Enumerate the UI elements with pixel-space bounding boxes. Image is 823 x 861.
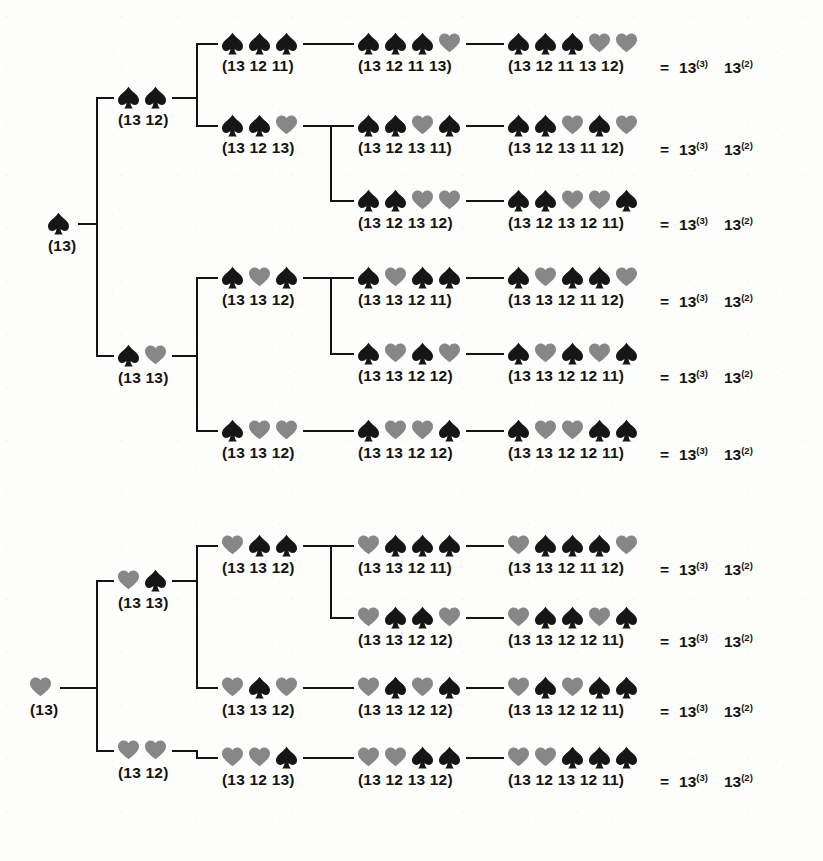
result-term-superscript: (3) [696, 702, 708, 713]
connector-horizontal [196, 757, 218, 759]
connector-horizontal [196, 43, 218, 45]
heart-icon [589, 33, 610, 53]
connector-horizontal [303, 43, 330, 45]
heart-icon [535, 747, 556, 767]
node-label: (13 13 12 12) [358, 444, 466, 461]
node-label: (13 12 13) [222, 139, 303, 156]
connector-vertical [196, 545, 198, 687]
connector-vertical [196, 750, 198, 757]
spade-icon [589, 746, 610, 770]
node-label: (13 13 12 12 11) [508, 444, 643, 461]
connector-vertical [330, 125, 332, 200]
suit-sequence [222, 262, 303, 290]
spade-icon [48, 212, 69, 236]
result-term-superscript: (3) [696, 560, 708, 571]
node-label: (13 12 13) [222, 771, 303, 788]
spade-icon [616, 606, 637, 630]
level4-node: (13 12 13 12) [358, 185, 466, 231]
suit-sequence [358, 110, 466, 138]
spade-icon [535, 32, 556, 56]
node-label: (13 12 11 13) [358, 57, 466, 74]
spade-icon [222, 114, 243, 138]
suit-sequence [222, 530, 303, 558]
result-term-falling-3: 13(3) [679, 633, 708, 650]
spade-icon [385, 676, 406, 700]
level3-node: (13 12 13) [222, 110, 303, 156]
equals-sign: = [660, 446, 669, 463]
spade-icon [276, 266, 297, 290]
level5-node: (13 13 12 12 11) [508, 602, 643, 648]
connector-vertical [330, 545, 332, 617]
equals-sign: = [660, 561, 669, 578]
level4-node: (13 12 13 12) [358, 742, 466, 788]
spade-icon [145, 86, 166, 110]
spade-icon [562, 534, 583, 558]
level5-node: (13 13 12 12 11) [508, 415, 643, 461]
connector-horizontal [330, 200, 354, 202]
result-expression: =13(3)13(2) [660, 772, 769, 791]
result-term-superscript: (2) [741, 58, 753, 69]
result-term-falling-2: 13(2) [724, 561, 753, 578]
level3-node: (13 13 12) [222, 672, 303, 718]
heart-icon [412, 115, 433, 135]
suit-sequence [222, 672, 303, 700]
heart-icon [118, 570, 139, 590]
heart-icon [616, 535, 637, 555]
spade-icon [439, 266, 460, 290]
spade-icon [535, 114, 556, 138]
result-term-base: 13 [679, 446, 696, 463]
equals-sign: = [660, 141, 669, 158]
level4-node: (13 13 12 12) [358, 415, 466, 461]
node-label: (13 12 13 12) [358, 214, 466, 231]
result-expression: =13(3)13(2) [660, 702, 769, 721]
spade-icon [508, 32, 529, 56]
heart-icon [249, 420, 270, 440]
heart-icon [535, 267, 556, 287]
spade-icon [385, 189, 406, 213]
level4-node: (13 13 12 12) [358, 672, 466, 718]
heart-icon [385, 420, 406, 440]
level4-node: (13 13 12 11) [358, 530, 466, 576]
result-term-base: 13 [724, 293, 741, 310]
level3-node: (13 13 12) [222, 262, 303, 308]
suit-sequence [358, 742, 466, 770]
result-term-falling-3: 13(3) [679, 773, 708, 790]
heart-icon [562, 115, 583, 135]
result-term-superscript: (2) [741, 560, 753, 571]
connector-horizontal [196, 687, 218, 689]
heart-icon [535, 343, 556, 363]
suit-sequence [48, 208, 76, 236]
heart-icon [616, 267, 637, 287]
spade-icon [439, 534, 460, 558]
spade-icon [616, 419, 637, 443]
result-term-falling-3: 13(3) [679, 216, 708, 233]
result-term-falling-3: 13(3) [679, 446, 708, 463]
heart-icon [616, 33, 637, 53]
connector-horizontal [172, 355, 196, 357]
spade-icon [412, 606, 433, 630]
heart-icon [439, 33, 460, 53]
suit-sequence [508, 28, 643, 56]
spade-icon [589, 266, 610, 290]
spade-icon [358, 266, 379, 290]
result-term-base: 13 [679, 216, 696, 233]
result-term-falling-3: 13(3) [679, 561, 708, 578]
result-term-superscript: (2) [741, 772, 753, 783]
node-label: (13 13 12 12) [358, 367, 466, 384]
connector-horizontal [466, 430, 504, 432]
spade-icon [412, 534, 433, 558]
result-term-falling-2: 13(2) [724, 216, 753, 233]
level4-node: (13 13 12 11) [358, 262, 466, 308]
spade-icon [276, 32, 297, 56]
heart-icon [249, 267, 270, 287]
result-term-base: 13 [724, 59, 741, 76]
heart-icon [249, 747, 270, 767]
connector-horizontal [78, 223, 96, 225]
level4-node: (13 13 12 12) [358, 338, 466, 384]
node-label: (13 13) [118, 369, 172, 386]
result-term-base: 13 [679, 293, 696, 310]
heart-icon [508, 747, 529, 767]
result-term-base: 13 [724, 773, 741, 790]
result-term-falling-2: 13(2) [724, 59, 753, 76]
connector-horizontal [466, 277, 504, 279]
